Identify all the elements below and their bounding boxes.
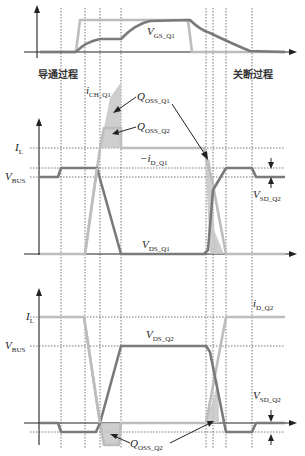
q1-panel: IL VBUS iCH_Q1 QOSS_Q1 QOSS_Q2 −iD_Q1 VD… [5,82,297,257]
vds-q1-label: VDS_Q1 [142,238,170,253]
id-q2-label: iD_Q2 [253,297,274,312]
q2-panel: IL VBUS iD_Q2 VDS_Q2 VSD_Q2 QOSS_Q2 [5,288,297,452]
vgs-label: VGS_Q1 [147,25,175,40]
switching-waveform-diagram: VGS_Q1 导通过程 关断过程 IL VBUS iCH_Q1 QOSS_Q1 … [0,0,305,456]
vsd-q2-label-bottom: VSD_Q2 [253,389,281,404]
qoss-q2-label-bottom: QOSS_Q2 [130,437,163,452]
vsd-q2-label-mid: VSD_Q2 [253,188,281,203]
id-q1-label: −iD_Q1 [140,152,168,167]
ich-label: iCH_Q1 [86,84,111,99]
vbus-label-q2: VBUS [5,339,25,354]
vds-q2-label: VDS_Q2 [146,328,174,343]
il-label-q2: IL [25,310,34,325]
vbus-label-q1: VBUS [5,170,25,185]
qoss-q1-label: QOSS_Q1 [137,90,170,105]
vgs-panel: VGS_Q1 [24,5,297,58]
il-label-q1: IL [14,141,23,156]
turn-off-label: 关断过程 [233,68,273,80]
turn-on-label: 导通过程 [38,68,78,80]
qoss-q2-label: QOSS_Q2 [137,120,170,135]
